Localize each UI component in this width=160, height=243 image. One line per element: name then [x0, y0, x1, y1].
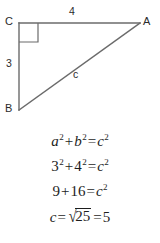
eq1-var-a: a [51, 133, 59, 149]
equation-block: a2+b2=c2 32+42=c2 9+16=c2 c=√25=5 [0, 128, 160, 243]
triangle-figure: C A B 4 3 c [0, 0, 160, 124]
eq4-radicand: 25 [75, 208, 91, 224]
triangle-svg [0, 0, 160, 124]
eq1-var-b: b [74, 133, 82, 149]
eq2-exp-b: 2 [82, 157, 87, 167]
eq3-num-b: 16 [70, 183, 85, 199]
eq2-exp-a: 2 [59, 157, 64, 167]
eq1-equals: = [87, 133, 97, 149]
eq1-plus: + [64, 133, 74, 149]
eq4-equals-1: = [56, 209, 66, 225]
eq2-var-c: c [97, 158, 104, 174]
eq2-num-a: 3 [51, 158, 59, 174]
eq3-exp-c: 2 [103, 182, 108, 192]
equation-line-1: a2+b2=c2 [0, 134, 160, 149]
equation-line-2: 32+42=c2 [0, 159, 160, 174]
pythagorean-worksheet-figure: C A B 4 3 c a2+b2=c2 32+42=c2 9+16=c2 c=… [0, 0, 160, 243]
eq1-exp-a: 2 [59, 132, 64, 142]
eq2-equals: = [87, 158, 97, 174]
eq1-var-c: c [97, 133, 104, 149]
eq3-plus: + [60, 183, 70, 199]
right-angle-marker-icon [19, 23, 38, 42]
side-length-label-hypotenuse: c [73, 69, 78, 80]
eq3-var-c: c [96, 183, 103, 199]
triangle-side-hypotenuse [19, 23, 140, 110]
side-length-label-left: 3 [6, 58, 12, 69]
square-root-group: √25 [68, 209, 91, 225]
eq4-equals-2: = [92, 209, 102, 225]
equation-line-3: 9+16=c2 [0, 184, 160, 199]
eq1-exp-b: 2 [82, 132, 87, 142]
equation-line-4: c=√25=5 [0, 209, 160, 225]
vertex-label-a: A [143, 16, 150, 27]
eq2-exp-c: 2 [104, 157, 109, 167]
side-length-label-top: 4 [69, 6, 75, 17]
eq4-result: 5 [103, 209, 111, 225]
vertex-label-c: C [5, 16, 13, 27]
eq3-equals: = [85, 183, 95, 199]
eq2-num-b: 4 [74, 158, 82, 174]
vertex-label-b: B [5, 103, 12, 114]
eq2-plus: + [64, 158, 74, 174]
eq1-exp-c: 2 [104, 132, 109, 142]
eq3-num-a: 9 [52, 183, 60, 199]
